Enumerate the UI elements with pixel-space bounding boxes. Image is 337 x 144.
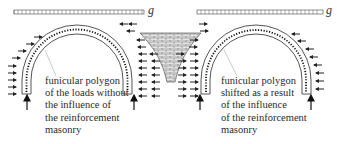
right-label-line: shifted as a result — [221, 87, 307, 99]
left-label-line: masonry — [45, 124, 129, 136]
left-label-line: the influence of — [45, 99, 129, 111]
load-bar-left — [14, 10, 144, 14]
leader-line-right — [224, 50, 237, 76]
right-label-line: of the influence — [221, 99, 307, 111]
left-label-line: of the loads without — [45, 87, 129, 99]
left-label-line: the reinforcement — [45, 112, 129, 124]
load-label-left: g — [148, 3, 154, 18]
left-arch-label: funicular polygon of the loads without t… — [45, 75, 129, 136]
right-label-line: of the reinforcement — [221, 112, 307, 124]
right-label-line: funicular polygon — [221, 75, 307, 87]
load-bar-right — [197, 10, 323, 14]
right-arch-label: funicular polygon shifted as a result of… — [221, 75, 307, 136]
leader-line-left — [45, 50, 56, 76]
left-label-line: funicular polygon — [45, 75, 129, 87]
load-label-right: g — [326, 3, 332, 18]
right-label-line: masonry — [221, 124, 307, 136]
